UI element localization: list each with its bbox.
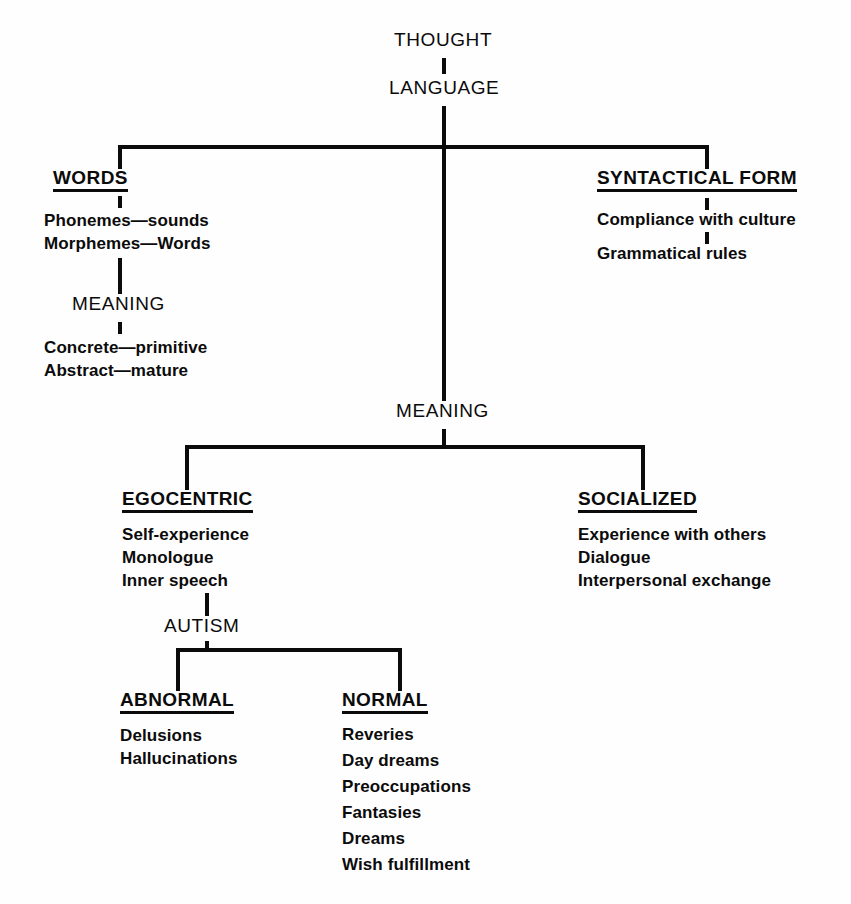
list-words-meaning-items: Concrete—primitive Abstract—mature [44,336,207,382]
list-item: Monologue [122,546,249,569]
node-language: LANGUAGE [389,78,499,97]
list-item: Delusions [120,724,238,747]
connector-crossbar-to-syntactical-form [705,145,709,169]
node-syntactical-item-grammatical: Grammatical rules [597,245,747,262]
connector-thought-language [442,58,446,74]
node-egocentric: EGOCENTRIC [122,489,253,513]
node-syntactical-form: SYNTACTICAL FORM [597,168,797,192]
connector-language-spine [442,106,446,401]
connector-words-to-items [118,196,122,208]
list-item: Preoccupations [342,774,471,800]
connector-syntactical-item1-to-item2 [705,232,709,244]
list-socialized-items: Experience with others Dialogue Interper… [578,523,771,592]
list-item: Wish fulfillment [342,852,471,878]
connector-crossbar-to-normal [398,648,402,691]
node-normal: NORMAL [342,690,428,714]
list-item: Interpersonal exchange [578,569,771,592]
node-socialized: SOCIALIZED [578,489,697,513]
list-item: Reveries [342,722,471,748]
node-thought: THOUGHT [394,30,492,49]
list-item: Phonemes—sounds [44,209,211,232]
connector-words-to-meaning [118,258,122,294]
list-item: Hallucinations [120,747,238,770]
node-words-meaning: MEANING [72,294,165,313]
node-words: WORDS [53,168,128,192]
list-item: Fantasies [342,800,471,826]
connector-meaning-crossbar [185,445,645,449]
list-item: Day dreams [342,748,471,774]
list-item: Inner speech [122,569,249,592]
list-item: Dialogue [578,546,771,569]
node-autism: AUTISM [164,616,239,635]
list-egocentric-items: Self-experience Monologue Inner speech [122,523,249,592]
connector-crossbar-to-socialized [641,445,645,490]
list-item: Abstract—mature [44,359,207,382]
node-meaning: MEANING [396,401,489,420]
thought-language-diagram: THOUGHT LANGUAGE WORDS Phonemes—sounds M… [0,0,851,904]
list-normal-items: Reveries Day dreams Preoccupations Fanta… [342,722,471,878]
node-abnormal: ABNORMAL [120,690,234,714]
list-item: Self-experience [122,523,249,546]
connector-crossbar-to-egocentric [185,445,189,490]
connector-egocentric-to-autism [205,593,209,616]
list-item: Dreams [342,826,471,852]
list-item: Experience with others [578,523,771,546]
connector-words-meaning-to-items [118,322,122,334]
node-syntactical-item-compliance: Compliance with culture [597,211,796,228]
connector-autism-crossbar [176,648,402,652]
connector-syntactical-form-to-item1 [705,198,709,210]
connector-crossbar-to-words [118,145,122,169]
connector-level1-crossbar [118,145,709,149]
list-item: Morphemes—Words [44,232,211,255]
list-words-items: Phonemes—sounds Morphemes—Words [44,209,211,255]
list-abnormal-items: Delusions Hallucinations [120,724,238,770]
connector-crossbar-to-abnormal [176,648,180,691]
list-item: Concrete—primitive [44,336,207,359]
